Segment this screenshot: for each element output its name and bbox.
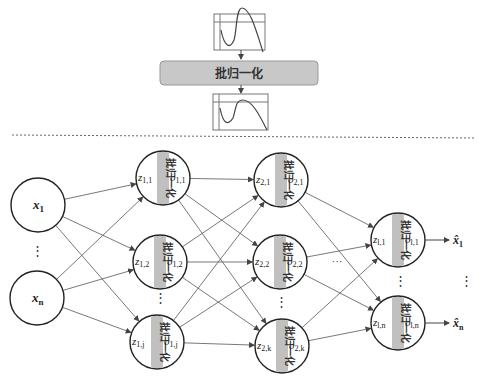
edge-arrow <box>57 197 143 279</box>
distribution-after-chart <box>213 94 268 130</box>
edge-arrow <box>182 277 259 330</box>
edge-arrow <box>180 277 257 327</box>
batch-norm-label: 批归一化 <box>215 66 263 81</box>
output-label: x̂1 <box>452 233 463 249</box>
edge-arrow <box>56 225 139 320</box>
vertical-ellipsis: ⋮ <box>460 273 473 288</box>
vertical-ellipsis: ⋮ <box>31 243 44 258</box>
hidden1-node-2: 批归一化z1,2o1,2 <box>133 235 187 289</box>
hidden2-node-2: 批归一化z2,2o2,2 <box>253 235 307 289</box>
edge-arrow <box>63 270 133 291</box>
edge-arrow <box>64 184 135 199</box>
vertical-ellipsis: ⋮ <box>394 273 407 288</box>
section-divider <box>12 135 476 138</box>
edge-arrow <box>302 259 377 328</box>
output-label: x̂n <box>452 316 464 332</box>
hidden1-node-1: 批归一化z1,1o1,1 <box>136 151 190 205</box>
input-node-x1: x1 <box>11 178 65 232</box>
hidden2-node-3: 批归一化z2,ko2,k <box>255 319 309 373</box>
vertical-ellipsis: ⋮ <box>275 294 288 309</box>
vertical-ellipsis: ⋮ <box>154 290 167 305</box>
hidden1-node-3: 批归一化z1,jo1,j <box>130 315 184 369</box>
horizontal-ellipsis: ··· <box>332 255 343 267</box>
edge-arrow <box>308 328 370 340</box>
edge-arrow <box>62 307 130 332</box>
edge-arrow <box>184 343 254 345</box>
batch-norm-box: 批归一化 <box>160 61 318 85</box>
output-node-1: 批归一化zl,1ol,1 <box>371 213 425 267</box>
output-node-2: 批归一化zl,nol,n <box>371 296 425 350</box>
distribution-before-chart <box>214 8 265 52</box>
hidden2-node-1: 批归一化z2,1o2,1 <box>254 153 308 207</box>
batch-normalization-diagram: 批归一化 x1xn批归一化z1,1o1,1批归一化z1,2o1,2批归一化z1,… <box>0 0 484 382</box>
edge-arrow <box>190 178 253 179</box>
input-node-xn: xn <box>10 271 64 325</box>
